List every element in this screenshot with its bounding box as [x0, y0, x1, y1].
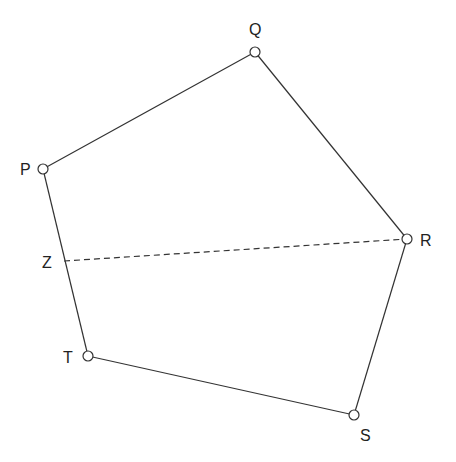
- label-t: T: [63, 349, 73, 366]
- label-q: Q: [249, 21, 261, 38]
- label-s: S: [360, 427, 371, 444]
- edge-qr: [255, 52, 407, 239]
- vertex-labels: PQRSTZ: [20, 21, 432, 444]
- edge-rs: [354, 239, 407, 415]
- label-r: R: [420, 232, 432, 249]
- label-z: Z: [42, 254, 52, 271]
- diagram-canvas: PQRSTZ: [0, 0, 456, 462]
- vertex-r-circle-icon: [402, 234, 412, 244]
- dashed-segment-zr: [64, 239, 407, 261]
- pentagon-edges: [43, 52, 407, 415]
- vertex-p-circle-icon: [38, 164, 48, 174]
- vertex-q-circle-icon: [250, 47, 260, 57]
- vertex-t-circle-icon: [83, 351, 93, 361]
- pentagon-diagram: PQRSTZ: [0, 0, 456, 462]
- vertex-markers: [38, 47, 412, 420]
- label-p: P: [20, 161, 31, 178]
- edge-pq: [43, 52, 255, 169]
- edge-st: [88, 356, 354, 415]
- vertex-s-circle-icon: [349, 410, 359, 420]
